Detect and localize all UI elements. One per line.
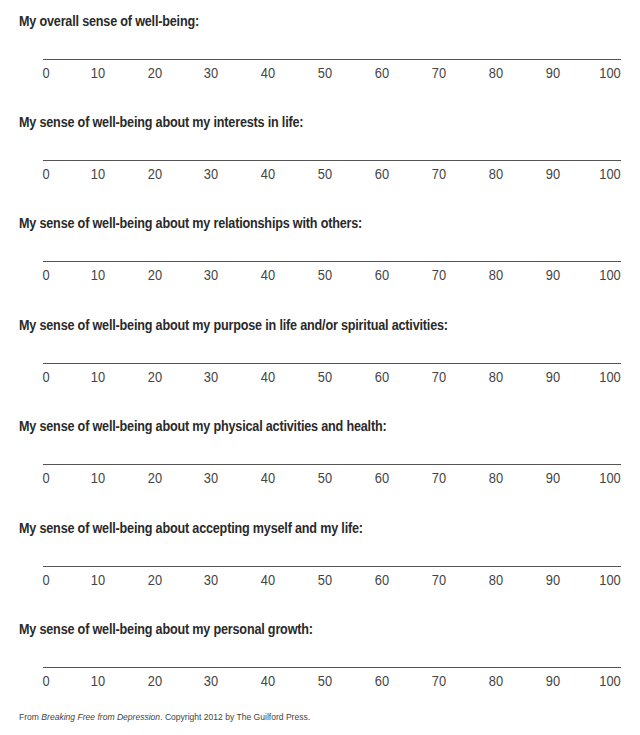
scale-tick-label: 70: [432, 572, 446, 588]
scale-tick-label: 80: [489, 267, 503, 283]
scale-tick-label: 80: [489, 673, 503, 689]
scale-tick-label: 0: [42, 470, 49, 486]
scale-tick-label: 90: [546, 470, 560, 486]
scale-tick-label: 60: [375, 470, 389, 486]
scale-tick-label: 10: [91, 369, 105, 385]
rating-item-label: My sense of well-being about my personal…: [19, 621, 313, 637]
scale-tick-label: 0: [42, 65, 49, 81]
scale-tick-label: 60: [375, 267, 389, 283]
rating-scale-line[interactable]: [43, 261, 621, 262]
scale-tick-label: 60: [375, 572, 389, 588]
scale-tick-label: 50: [318, 369, 332, 385]
rating-scale-line[interactable]: [43, 464, 621, 465]
scale-tick-label: 10: [91, 572, 105, 588]
rating-scale-line[interactable]: [43, 59, 621, 60]
scale-tick-label: 50: [318, 267, 332, 283]
rating-item-label: My overall sense of well-being:: [19, 13, 199, 29]
scale-tick-label: 10: [91, 166, 105, 182]
rating-scale-line[interactable]: [43, 566, 621, 567]
rating-item: My overall sense of well-being:010203040…: [0, 13, 640, 114]
scale-tick-label: 70: [432, 65, 446, 81]
scale-tick-label: 90: [546, 369, 560, 385]
scale-tick-label: 40: [261, 470, 275, 486]
scale-tick-label: 60: [375, 166, 389, 182]
scale-tick-label: 40: [261, 369, 275, 385]
scale-tick-labels: 0102030405060708090100: [0, 470, 640, 490]
scale-tick-label: 30: [204, 65, 218, 81]
scale-tick-label: 80: [489, 369, 503, 385]
rating-item: My sense of well-being about my physical…: [0, 418, 640, 519]
scale-tick-labels: 0102030405060708090100: [0, 572, 640, 592]
scale-tick-label: 20: [148, 572, 162, 588]
rating-item-label: My sense of well-being about my interest…: [19, 114, 303, 130]
rating-scale-line[interactable]: [43, 160, 621, 161]
scale-tick-label: 20: [148, 65, 162, 81]
scale-tick-label: 100: [599, 267, 620, 283]
scale-tick-label: 50: [318, 65, 332, 81]
scale-tick-label: 90: [546, 572, 560, 588]
rating-item: My sense of well-being about my personal…: [0, 621, 640, 722]
scale-tick-labels: 0102030405060708090100: [0, 166, 640, 186]
scale-tick-label: 10: [91, 267, 105, 283]
scale-tick-label: 70: [432, 470, 446, 486]
scale-tick-label: 40: [261, 65, 275, 81]
scale-tick-label: 80: [489, 470, 503, 486]
scale-tick-label: 80: [489, 166, 503, 182]
scale-tick-label: 30: [204, 470, 218, 486]
scale-tick-label: 70: [432, 673, 446, 689]
rating-item: My sense of well-being about my relation…: [0, 215, 640, 316]
scale-tick-label: 90: [546, 267, 560, 283]
scale-tick-label: 70: [432, 369, 446, 385]
footer-suffix: . Copyright 2012 by The Guilford Press.: [160, 711, 310, 722]
scale-tick-label: 20: [148, 267, 162, 283]
rating-item-label: My sense of well-being about my purpose …: [19, 317, 448, 333]
scale-tick-label: 40: [261, 572, 275, 588]
scale-tick-label: 10: [91, 673, 105, 689]
rating-item-label: My sense of well-being about my relation…: [19, 215, 362, 231]
scale-tick-label: 30: [204, 267, 218, 283]
rating-item: My sense of well-being about my interest…: [0, 114, 640, 215]
scale-tick-label: 0: [42, 267, 49, 283]
footer-prefix: From: [19, 711, 41, 722]
scale-tick-label: 40: [261, 673, 275, 689]
scale-tick-label: 0: [42, 369, 49, 385]
scale-tick-label: 50: [318, 166, 332, 182]
scale-tick-label: 70: [432, 166, 446, 182]
scale-tick-label: 80: [489, 572, 503, 588]
scale-tick-label: 80: [489, 65, 503, 81]
scale-tick-label: 30: [204, 166, 218, 182]
scale-tick-label: 0: [42, 572, 49, 588]
scale-tick-label: 100: [599, 572, 620, 588]
scale-tick-label: 60: [375, 369, 389, 385]
scale-tick-labels: 0102030405060708090100: [0, 369, 640, 389]
rating-item-label: My sense of well-being about accepting m…: [19, 520, 363, 536]
rating-item: My sense of well-being about my purpose …: [0, 317, 640, 418]
scale-tick-label: 100: [599, 673, 620, 689]
scale-tick-label: 50: [318, 572, 332, 588]
scale-tick-label: 100: [599, 166, 620, 182]
scale-tick-label: 0: [42, 673, 49, 689]
scale-tick-label: 40: [261, 166, 275, 182]
scale-tick-label: 50: [318, 470, 332, 486]
scale-tick-label: 90: [546, 65, 560, 81]
scale-tick-labels: 0102030405060708090100: [0, 65, 640, 85]
scale-tick-label: 90: [546, 673, 560, 689]
rating-scale-line[interactable]: [43, 667, 621, 668]
scale-tick-label: 60: [375, 65, 389, 81]
scale-tick-label: 90: [546, 166, 560, 182]
scale-tick-label: 30: [204, 369, 218, 385]
scale-tick-label: 10: [91, 470, 105, 486]
scale-tick-label: 0: [42, 166, 49, 182]
rating-item: My sense of well-being about accepting m…: [0, 520, 640, 621]
scale-tick-labels: 0102030405060708090100: [0, 673, 640, 693]
scale-tick-label: 100: [599, 369, 620, 385]
scale-tick-label: 10: [91, 65, 105, 81]
scale-tick-labels: 0102030405060708090100: [0, 267, 640, 287]
scale-tick-label: 50: [318, 673, 332, 689]
scale-tick-label: 40: [261, 267, 275, 283]
scale-tick-label: 20: [148, 166, 162, 182]
rating-scale-line[interactable]: [43, 363, 621, 364]
copyright-footer: From Breaking Free from Depression. Copy…: [19, 711, 310, 722]
scale-tick-label: 30: [204, 572, 218, 588]
rating-item-label: My sense of well-being about my physical…: [19, 418, 386, 434]
